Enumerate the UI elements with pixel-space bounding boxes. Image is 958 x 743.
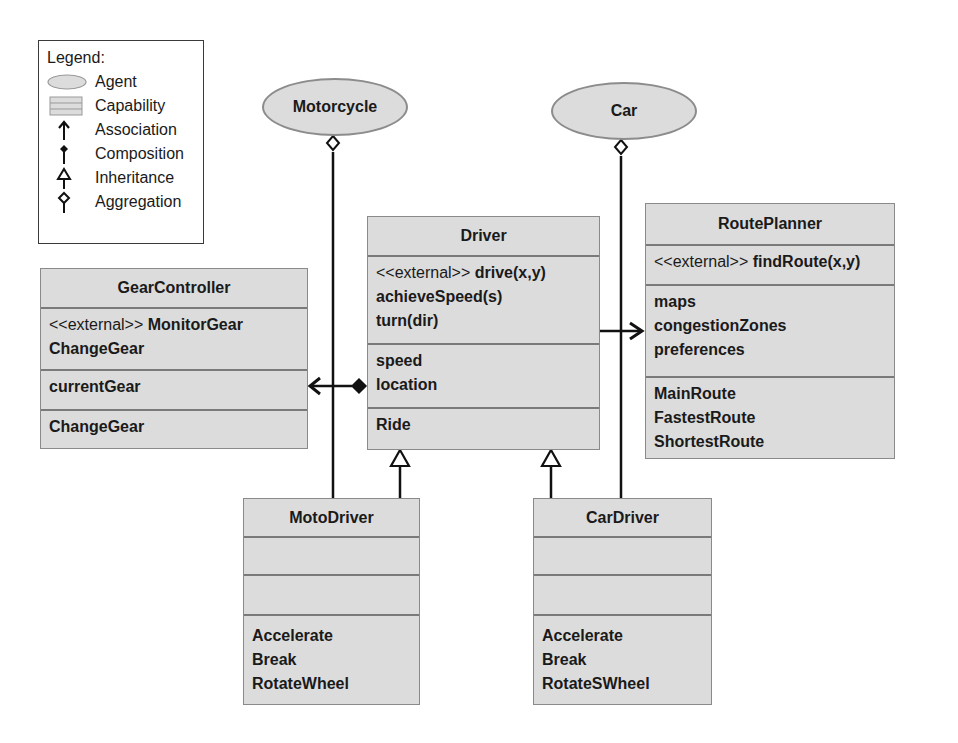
operation: <<external>> drive(x,y): [376, 261, 591, 285]
inheritance-triangle-icon: [391, 450, 409, 466]
capability: MainRoute: [654, 382, 886, 406]
capability: Break: [252, 648, 411, 672]
operations-section: [534, 538, 711, 576]
agent-ellipse-icon: [47, 70, 91, 94]
class-name: GearController: [41, 269, 307, 309]
legend-item-capability: Capability: [47, 94, 203, 118]
class-name: MotoDriver: [244, 499, 419, 538]
capability: Accelerate: [252, 624, 411, 648]
association-arrow-icon: [47, 118, 91, 142]
agent-motorcycle[interactable]: Motorcycle: [262, 78, 408, 136]
composition-diamond-icon: [47, 142, 91, 166]
capability: Break: [542, 648, 703, 672]
capabilities-section: ChangeGear: [41, 411, 307, 443]
capabilities-section: Accelerate Break RotateWheel: [244, 616, 419, 700]
legend-title: Legend:: [47, 47, 203, 69]
legend-item-inheritance: Inheritance: [47, 166, 203, 190]
legend-item-association: Association: [47, 118, 203, 142]
operation: achieveSpeed(s): [376, 285, 591, 309]
operations-section: <<external>> findRoute(x,y): [646, 246, 894, 286]
operation: <<external>> MonitorGear: [49, 313, 299, 337]
attribute: maps: [654, 290, 886, 314]
class-driver[interactable]: Driver <<external>> drive(x,y) achieveSp…: [367, 216, 600, 450]
capability: FastestRoute: [654, 406, 886, 430]
class-moto-driver[interactable]: MotoDriver Accelerate Break RotateWheel: [243, 498, 420, 705]
capability: RotateWheel: [252, 672, 411, 696]
capabilities-section: Ride: [368, 409, 599, 441]
attribute: location: [376, 373, 591, 397]
legend-item-aggregation: Aggregation: [47, 190, 203, 214]
attribute: preferences: [654, 338, 886, 362]
class-name: RoutePlanner: [646, 204, 894, 246]
attributes-section: [244, 576, 419, 616]
inheritance-triangle-icon: [542, 450, 560, 466]
class-route-planner[interactable]: RoutePlanner <<external>> findRoute(x,y)…: [645, 203, 895, 459]
inheritance-triangle-icon: [47, 166, 91, 190]
attributes-section: [534, 576, 711, 616]
aggregation-diamond-icon: [47, 190, 91, 214]
aggregation-diamond-icon: [327, 136, 339, 150]
operation: turn(dir): [376, 309, 591, 333]
operation: ChangeGear: [49, 337, 299, 361]
operations-section: [244, 538, 419, 576]
legend-item-agent: Agent: [47, 70, 203, 94]
capabilities-section: MainRoute FastestRoute ShortestRoute: [646, 378, 894, 458]
capability: Accelerate: [542, 624, 703, 648]
class-name: Driver: [368, 217, 599, 257]
capability: ChangeGear: [49, 415, 299, 439]
agent-car[interactable]: Car: [551, 82, 697, 140]
capability: ShortestRoute: [654, 430, 886, 454]
capability-box-icon: [47, 94, 91, 118]
operation: <<external>> findRoute(x,y): [654, 250, 886, 274]
attribute: currentGear: [49, 375, 299, 399]
attributes-section: maps congestionZones preferences: [646, 286, 894, 378]
capability: RotateSWheel: [542, 672, 703, 696]
attributes-section: currentGear: [41, 371, 307, 411]
capability: Ride: [376, 413, 591, 437]
attribute: speed: [376, 349, 591, 373]
legend-item-composition: Composition: [47, 142, 203, 166]
class-name: CarDriver: [534, 499, 711, 538]
attributes-section: speed location: [368, 345, 599, 409]
attribute: congestionZones: [654, 314, 886, 338]
class-gear-controller[interactable]: GearController <<external>> MonitorGear …: [40, 268, 308, 449]
capabilities-section: Accelerate Break RotateSWheel: [534, 616, 711, 700]
operations-section: <<external>> drive(x,y) achieveSpeed(s) …: [368, 257, 599, 345]
class-car-driver[interactable]: CarDriver Accelerate Break RotateSWheel: [533, 498, 712, 705]
operations-section: <<external>> MonitorGear ChangeGear: [41, 309, 307, 371]
composition-diamond-icon: [352, 379, 366, 393]
aggregation-diamond-icon: [615, 140, 627, 154]
legend: Legend: Agent Capability Association Com…: [38, 40, 204, 244]
